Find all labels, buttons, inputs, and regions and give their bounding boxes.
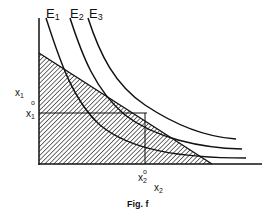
x1o-label-sub: 1: [31, 113, 35, 120]
curve-label-e3-name: E: [89, 6, 98, 21]
figure-caption: Fig. f: [127, 200, 149, 209]
x1o-label: x1o: [26, 106, 35, 120]
curve-label-e2-name: E: [70, 6, 79, 21]
curve-label-e1-sub: 1: [55, 12, 60, 22]
x2o-label-sup: o: [143, 168, 147, 175]
curve-label-e1-name: E: [46, 6, 55, 21]
y-axis-label-sub: 1: [20, 92, 24, 99]
curve-label-e3: E3: [89, 7, 103, 22]
curve-label-e2: E2: [70, 7, 84, 22]
x1o-label-sup: o: [31, 99, 35, 106]
x2o-label-sub: 2: [143, 177, 147, 184]
curve-label-e3-sub: 3: [98, 12, 103, 22]
x-axis-label-sub: 2: [159, 187, 163, 194]
curve-label-e1: E1: [46, 7, 60, 22]
y-axis-label: x1: [15, 88, 24, 99]
x-axis-label: x2: [154, 183, 163, 194]
curve-label-e2-sub: 2: [79, 12, 84, 22]
x2o-label: x2o: [138, 170, 147, 184]
